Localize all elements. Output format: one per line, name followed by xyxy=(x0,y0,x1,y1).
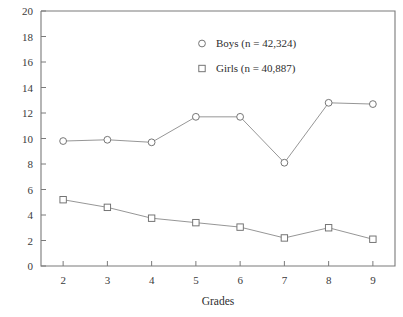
data-series-layer xyxy=(60,99,377,242)
y-tick-label: 18 xyxy=(22,31,34,43)
y-tick-label: 10 xyxy=(22,133,34,145)
y-tick-label: 0 xyxy=(28,260,34,272)
data-point-marker xyxy=(370,236,376,242)
data-point-marker xyxy=(325,225,331,231)
series-girls xyxy=(60,197,376,243)
circle-marker-icon xyxy=(199,40,206,47)
plot-frame xyxy=(41,11,395,266)
data-point-marker xyxy=(104,204,110,210)
legend-label: Girls (n = 40,887) xyxy=(216,62,296,75)
chart-legend: Boys (n = 42,324)Girls (n = 40,887) xyxy=(199,37,297,75)
data-point-marker xyxy=(60,197,66,203)
data-point-marker xyxy=(281,235,287,241)
x-tick-label: 5 xyxy=(193,274,199,286)
y-tick-label: 8 xyxy=(28,158,34,170)
chart-canvas: 02468101214161820 23456789 Boys (n = 42,… xyxy=(0,0,403,317)
data-point-marker xyxy=(193,219,199,225)
x-tick-label: 2 xyxy=(60,274,66,286)
data-point-marker xyxy=(148,215,154,221)
data-point-marker xyxy=(325,99,332,106)
series-boys xyxy=(60,99,377,166)
x-tick-label: 6 xyxy=(237,274,243,286)
data-point-marker xyxy=(104,136,111,143)
y-tick-label: 6 xyxy=(28,184,34,196)
y-tick-label: 16 xyxy=(22,56,34,68)
y-tick-label: 12 xyxy=(22,107,33,119)
y-tick-label: 20 xyxy=(22,5,34,17)
x-tick-label: 8 xyxy=(326,274,332,286)
y-axis-ticks xyxy=(41,11,46,266)
y-tick-label: 4 xyxy=(28,209,34,221)
data-point-marker xyxy=(60,138,67,145)
line-chart-figure: 02468101214161820 23456789 Boys (n = 42,… xyxy=(0,0,403,317)
data-point-marker xyxy=(192,113,199,120)
series-line xyxy=(63,103,373,163)
legend-entry: Girls (n = 40,887) xyxy=(199,62,296,75)
data-point-marker xyxy=(237,224,243,230)
data-point-marker xyxy=(148,139,155,146)
x-axis-ticks xyxy=(63,261,373,266)
y-tick-label: 2 xyxy=(28,235,34,247)
y-axis-tick-labels: 02468101214161820 xyxy=(22,5,34,272)
x-axis-tick-labels: 23456789 xyxy=(60,274,376,286)
x-tick-label: 9 xyxy=(370,274,376,286)
x-tick-label: 4 xyxy=(149,274,155,286)
legend-label: Boys (n = 42,324) xyxy=(216,37,296,50)
data-point-marker xyxy=(281,159,288,166)
y-tick-label: 14 xyxy=(22,82,34,94)
legend-entry: Boys (n = 42,324) xyxy=(199,37,297,50)
data-point-marker xyxy=(237,113,244,120)
data-point-marker xyxy=(369,101,376,108)
x-tick-label: 7 xyxy=(282,274,288,286)
x-tick-label: 3 xyxy=(105,274,111,286)
x-axis-title: Grades xyxy=(202,295,235,307)
square-marker-icon xyxy=(199,65,205,71)
